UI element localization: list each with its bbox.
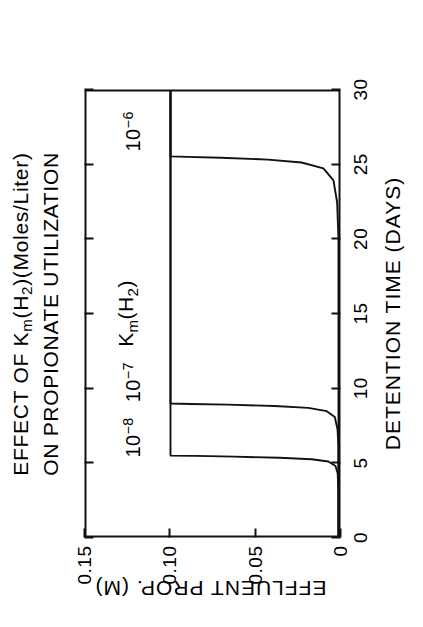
- km-close: ): [114, 280, 137, 287]
- km-subscript-m: m: [123, 319, 140, 332]
- curve-annotation-10: 10−7: [120, 362, 144, 402]
- km-open: (H: [114, 296, 137, 319]
- chart-title-line-2: ON PROPIONATE UTILIZATION: [36, 0, 64, 627]
- chart-title-subscript-m: m: [17, 318, 34, 331]
- x-tick-bottom-2: [331, 387, 340, 389]
- chart-title-part-c: )(Moles/Liter): [8, 152, 31, 285]
- x-tick-label-6: 30: [349, 78, 371, 100]
- y-tick-left-3: [83, 528, 85, 537]
- chart-title-subscript-2: 2: [17, 285, 34, 294]
- x-tick-label-2: 10: [349, 377, 371, 399]
- chart-figure: EFFECT OF Km(H2)(Moles/Liter) ON PROPION…: [0, 0, 423, 627]
- x-tick-top-3: [84, 312, 93, 314]
- exp-base: 10: [121, 128, 143, 151]
- exp-base: 10: [121, 379, 143, 402]
- chart-title: EFFECT OF Km(H2)(Moles/Liter) ON PROPION…: [6, 0, 64, 627]
- exp-value: −8: [120, 417, 136, 434]
- x-tick-label-1: 5: [349, 457, 371, 468]
- x-tick-top-1: [84, 461, 93, 463]
- x-tick-label-4: 20: [349, 227, 371, 249]
- x-tick-label-3: 15: [349, 302, 371, 324]
- y-tick-left-2: [168, 528, 170, 537]
- chart-title-line-1: EFFECT OF Km(H2)(Moles/Liter): [6, 0, 36, 627]
- exp-value: −7: [120, 362, 136, 379]
- curve-annotation-10: 10−8: [120, 417, 144, 457]
- curve-annotation-10: 10−6: [120, 111, 144, 151]
- x-tick-top-5: [84, 163, 93, 165]
- x-tick-bottom-3: [331, 312, 340, 314]
- km-subscript-2: 2: [123, 287, 140, 296]
- x-tick-bottom-5: [331, 163, 340, 165]
- y-tick-left-1: [254, 528, 256, 537]
- x-tick-top-6: [84, 88, 93, 90]
- chart-title-part-b: (H: [8, 294, 31, 318]
- km-k: K: [114, 332, 137, 346]
- x-axis-title: DETENTION TIME (DAYS): [380, 89, 404, 537]
- x-tick-label-5: 25: [349, 153, 371, 175]
- y-axis-title: EFFLUENT PROP. (M): [70, 575, 350, 599]
- exp-value: −6: [120, 111, 136, 128]
- y-tick-left-0: [339, 528, 341, 537]
- x-tick-bottom-1: [331, 461, 340, 463]
- x-tick-bottom-4: [331, 237, 340, 239]
- x-tick-top-4: [84, 237, 93, 239]
- x-tick-top-2: [84, 387, 93, 389]
- exp-base: 10: [121, 434, 143, 457]
- x-tick-label-0: 0: [349, 531, 371, 542]
- annotation-km-h2: Km(H2): [114, 280, 140, 347]
- curve-10-6: [170, 91, 338, 535]
- x-tick-bottom-6: [331, 88, 340, 90]
- chart-title-part-a: EFFECT OF K: [8, 331, 31, 475]
- figure-page: EFFECT OF Km(H2)(Moles/Liter) ON PROPION…: [0, 0, 423, 627]
- rotated-figure-stage: EFFECT OF Km(H2)(Moles/Liter) ON PROPION…: [0, 0, 423, 627]
